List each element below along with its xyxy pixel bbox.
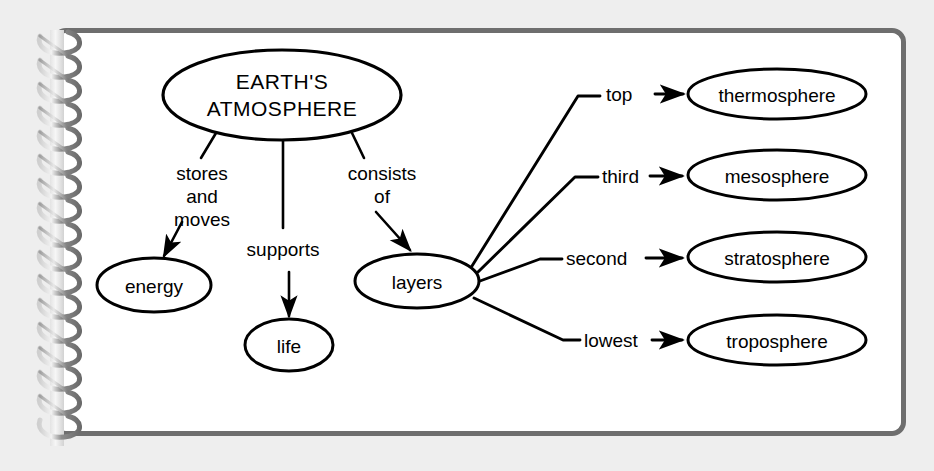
notebook-concept-map-screenshot: EARTH'S ATMOSPHERE energy life layers th… — [0, 0, 934, 471]
page-surface — [57, 33, 901, 431]
spiral-binding — [14, 26, 98, 450]
notebook-page — [52, 28, 906, 436]
